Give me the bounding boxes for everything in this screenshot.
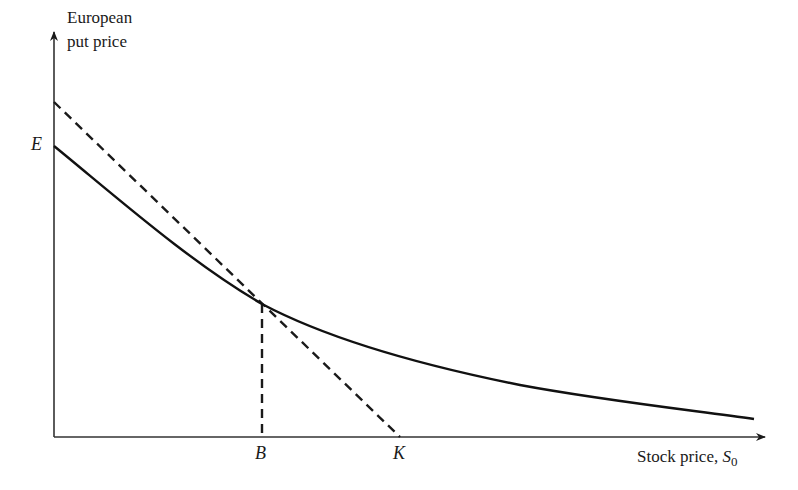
x-tick-k: K (392, 443, 406, 463)
y-axis-label-line2: put price (67, 32, 127, 51)
intrinsic-value-dashed-line (54, 102, 400, 437)
x-axis-label-text: Stock price, (637, 447, 722, 466)
x-axis-label: Stock price, S0 (637, 447, 737, 469)
y-tick-e: E (30, 134, 42, 154)
y-axis-label-line1: European (67, 8, 133, 27)
x-tick-b: B (255, 443, 266, 463)
x-axis-label-subscript: 0 (731, 454, 738, 469)
put-price-curve (54, 146, 754, 419)
chart: European put price E B K Stock price, S0 (0, 0, 798, 490)
